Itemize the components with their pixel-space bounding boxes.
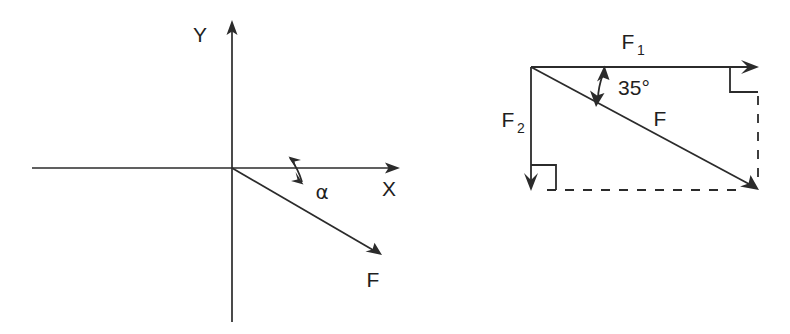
f1-label-subscript: 1 <box>637 42 645 58</box>
x-axis-label: X <box>382 177 396 200</box>
left-force-label: F <box>367 268 380 291</box>
f2-label-subscript: 2 <box>517 120 525 136</box>
f1-label-group: F 1 <box>622 30 646 58</box>
resultant-arrowhead-icon <box>740 175 759 190</box>
right-panel-group: F 1 F 2 F 35° <box>502 30 759 191</box>
alpha-arc-arrowhead-upper-icon <box>289 157 302 170</box>
f2-label-group: F 2 <box>502 108 526 136</box>
alpha-angle-label: α <box>315 180 328 204</box>
left-panel-group: Y X α F <box>32 20 400 322</box>
angle-35-label: 35° <box>618 76 650 99</box>
resultant-force-label: F <box>654 107 667 130</box>
f2-label-base: F <box>502 108 515 131</box>
f1-label-base: F <box>622 30 635 53</box>
force-diagram-figure: Y X α F <box>0 0 790 334</box>
left-force-arrowhead-icon <box>366 243 383 255</box>
diagram-canvas: Y X α F <box>0 0 790 334</box>
right-angle-marker-top <box>730 67 758 92</box>
left-force-vector-line <box>232 168 373 250</box>
y-axis-label: Y <box>193 23 207 46</box>
